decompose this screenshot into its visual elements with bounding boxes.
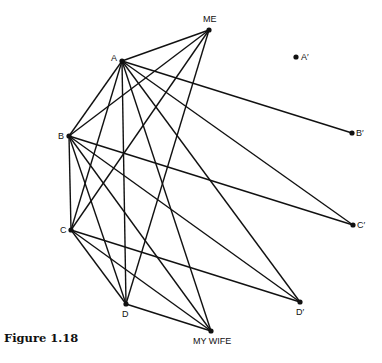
node-label-MW: MY WIFE xyxy=(193,336,231,346)
node-Bp xyxy=(349,130,354,135)
node-Ap xyxy=(293,54,298,59)
node-label-Cp: C′ xyxy=(357,220,365,230)
edge-D-MW xyxy=(126,304,211,331)
node-C xyxy=(68,227,73,232)
edge-C-Dp xyxy=(71,230,300,302)
node-D xyxy=(123,301,128,306)
edge-ME-A xyxy=(122,30,209,61)
edge-B-Cp xyxy=(69,136,353,225)
node-label-Ap: A′ xyxy=(301,52,309,62)
edge-B-MW xyxy=(69,136,211,331)
node-label-A: A xyxy=(111,53,117,63)
edge-C-D xyxy=(71,230,126,304)
nodes: MEAA′BB′CC′DD′MY WIFE xyxy=(58,14,365,346)
node-label-C: C xyxy=(60,225,67,235)
node-B xyxy=(66,133,71,138)
edge-ME-C xyxy=(71,30,209,230)
edge-A-MW xyxy=(122,61,211,331)
edge-A-Cp xyxy=(122,61,353,225)
figure-caption: Figure 1.18 xyxy=(4,331,78,345)
edge-A-C xyxy=(71,61,122,230)
node-label-ME: ME xyxy=(203,14,217,24)
node-MW xyxy=(208,328,213,333)
edge-B-Dp xyxy=(69,136,300,302)
node-A xyxy=(119,58,124,63)
node-label-Bp: B′ xyxy=(356,128,364,138)
node-label-B: B xyxy=(58,131,64,141)
edges xyxy=(69,30,353,331)
node-Cp xyxy=(350,222,355,227)
graph-diagram: MEAA′BB′CC′DD′MY WIFE xyxy=(0,0,382,363)
edge-C-MW xyxy=(71,230,211,331)
edge-A-B xyxy=(69,61,122,136)
node-label-D: D xyxy=(122,309,129,319)
edge-A-Bp xyxy=(122,61,352,133)
node-ME xyxy=(206,27,211,32)
node-label-Dp: D′ xyxy=(296,307,304,317)
node-Dp xyxy=(297,299,302,304)
edge-B-C xyxy=(69,136,71,230)
edge-A-Dp xyxy=(122,61,300,302)
